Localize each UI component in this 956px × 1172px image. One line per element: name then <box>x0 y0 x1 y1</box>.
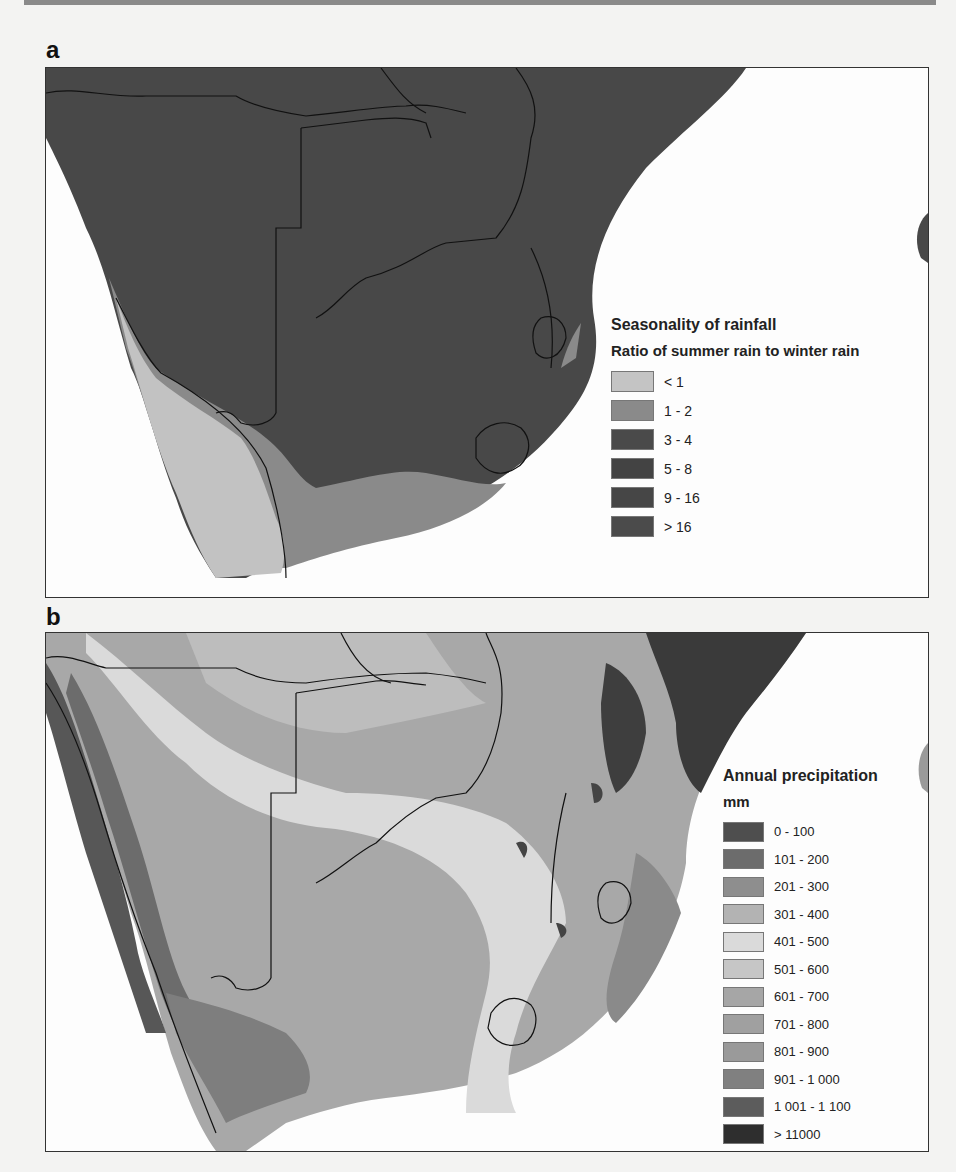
legend-swatch <box>611 429 654 450</box>
legend-item: 201 - 300 <box>723 873 878 901</box>
panel-b-label: b <box>46 603 61 631</box>
legend-label: 701 - 800 <box>774 1017 829 1032</box>
legend-label: 101 - 200 <box>774 852 829 867</box>
legend-item: 601 - 700 <box>723 983 878 1011</box>
legend-item: < 1 <box>611 367 859 396</box>
legend-item: 701 - 800 <box>723 1011 878 1039</box>
legend-item: 0 - 100 <box>723 818 878 846</box>
legend-label: 1 001 - 1 100 <box>774 1099 851 1114</box>
legend-item: 9 - 16 <box>611 483 859 512</box>
legend-item: 301 - 400 <box>723 901 878 929</box>
legend-swatch <box>611 516 654 537</box>
legend-label: < 1 <box>664 374 684 390</box>
panel-a-label: a <box>46 36 59 64</box>
legend-swatch <box>611 487 654 508</box>
page-top-rule <box>24 0 936 5</box>
legend-swatch <box>723 1097 764 1117</box>
legend-label: 301 - 400 <box>774 907 829 922</box>
legend-item: > 11000 <box>723 1121 878 1149</box>
legend-label: 401 - 500 <box>774 934 829 949</box>
legend-swatch <box>723 877 764 897</box>
legend-subtitle: Ratio of summer rain to winter rain <box>611 342 859 359</box>
legend-item: 401 - 500 <box>723 928 878 956</box>
map-panel-a: Seasonality of rainfall Ratio of summer … <box>45 67 929 598</box>
legend-item: 101 - 200 <box>723 846 878 874</box>
legend-swatch <box>723 932 764 952</box>
legend-item: 1 - 2 <box>611 396 859 425</box>
legend-swatch <box>723 1042 764 1062</box>
legend-label: > 16 <box>664 519 692 535</box>
legend-title: Seasonality of rainfall <box>611 316 859 334</box>
madagascar-edge <box>919 743 928 793</box>
legend-item: 501 - 600 <box>723 956 878 984</box>
legend-item: 5 - 8 <box>611 454 859 483</box>
legend-label: 1 - 2 <box>664 403 692 419</box>
legend-label: 601 - 700 <box>774 989 829 1004</box>
legend-label: 201 - 300 <box>774 879 829 894</box>
map-panel-b: Annual precipitation mm 0 - 100 101 - 20… <box>45 632 929 1152</box>
legend-label: 3 - 4 <box>664 432 692 448</box>
legend-swatch <box>723 822 764 842</box>
legend-precipitation: Annual precipitation mm 0 - 100 101 - 20… <box>723 767 878 1148</box>
legend-swatch <box>723 987 764 1007</box>
legend-item: 801 - 900 <box>723 1038 878 1066</box>
legend-swatch <box>723 904 764 924</box>
legend-item: 901 - 1 000 <box>723 1066 878 1094</box>
legend-swatch <box>723 1069 764 1089</box>
legend-label: 801 - 900 <box>774 1044 829 1059</box>
legend-seasonality: Seasonality of rainfall Ratio of summer … <box>611 316 859 541</box>
legend-item: > 16 <box>611 512 859 541</box>
legend-label: 501 - 600 <box>774 962 829 977</box>
legend-swatch <box>723 1124 764 1144</box>
legend-swatch <box>723 959 764 979</box>
legend-swatch <box>723 1014 764 1034</box>
madagascar-edge <box>917 213 928 263</box>
legend-subtitle: mm <box>723 793 878 810</box>
legend-label: > 11000 <box>774 1127 820 1142</box>
legend-swatch <box>611 458 654 479</box>
legend-label: 5 - 8 <box>664 461 692 477</box>
legend-item: 3 - 4 <box>611 425 859 454</box>
legend-label: 901 - 1 000 <box>774 1072 840 1087</box>
legend-label: 0 - 100 <box>774 824 814 839</box>
legend-swatch <box>611 400 654 421</box>
legend-swatch <box>611 371 654 392</box>
legend-item: 1 001 - 1 100 <box>723 1093 878 1121</box>
legend-title: Annual precipitation <box>723 767 878 785</box>
legend-label: 9 - 16 <box>664 490 700 506</box>
legend-swatch <box>723 849 764 869</box>
